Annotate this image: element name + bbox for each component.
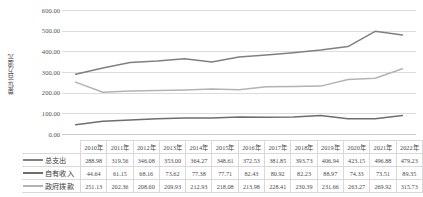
- y-axis-tick-label: 0.00: [22, 131, 60, 138]
- table-row: 政府拨款251.13202.36208.60209.93212.93218.08…: [0, 180, 423, 193]
- table-legend-corner: [22, 141, 81, 154]
- table-cell: 77.38: [186, 167, 212, 180]
- table-cell: 231.66: [317, 180, 343, 193]
- table-cell: 364.27: [186, 154, 212, 167]
- table-cell: 269.92: [370, 180, 396, 193]
- table-col-header: 2014年: [186, 141, 212, 154]
- table-cell: 381.85: [265, 154, 291, 167]
- x-axis-line: [62, 134, 416, 135]
- y-axis-tick-label: 300.00: [22, 69, 60, 76]
- y-axis-tick-label: 200.00: [22, 89, 60, 96]
- table-cell: 230.39: [291, 180, 317, 193]
- table-cell: 80.92: [265, 167, 291, 180]
- table-cell: 208.60: [133, 180, 159, 193]
- table-cell: 288.98: [81, 154, 107, 167]
- table-cell: 346.08: [133, 154, 159, 167]
- table-cell: 263.27: [343, 180, 369, 193]
- table-cell: 348.61: [212, 154, 238, 167]
- table-cell: 202.36: [107, 180, 133, 193]
- y-axis-tick-label: 500.00: [22, 27, 60, 34]
- table-cell: 68.16: [133, 167, 159, 180]
- table-cell: 393.73: [291, 154, 317, 167]
- table-col-header: 2022年: [396, 141, 422, 154]
- legend-label: 总支出: [45, 155, 67, 165]
- table-header-row: 2010年2011年2012年2013年2014年2015年2016年2017年…: [0, 141, 423, 154]
- legend-label: 自有收入: [45, 168, 74, 178]
- table-cell: 73.51: [370, 167, 396, 180]
- legend-line-swatch: [23, 172, 43, 174]
- table-row-spacer: [0, 180, 22, 193]
- data-table: 2010年2011年2012年2013年2014年2015年2016年2017年…: [0, 140, 423, 193]
- series-line-总支出: [76, 31, 403, 74]
- table-cell: 209.93: [159, 180, 185, 193]
- table-cell: 479.23: [396, 154, 422, 167]
- table-col-header: 2015年: [212, 141, 238, 154]
- table-col-header: 2020年: [343, 141, 369, 154]
- table-cell: 82.43: [238, 167, 264, 180]
- table-cell: 319.56: [107, 154, 133, 167]
- table-col-header: 2011年: [107, 141, 133, 154]
- table-cell: 82.23: [291, 167, 317, 180]
- chart-figure: 单位/百万澳元 600.00500.00400.00300.00200.0010…: [0, 0, 423, 197]
- table-col-header: 2018年: [291, 141, 317, 154]
- series-lines: [62, 10, 416, 134]
- table-cell: 89.35: [396, 167, 422, 180]
- legend-entry-自有收入[interactable]: 自有收入: [22, 167, 81, 180]
- table-cell: 251.13: [81, 180, 107, 193]
- table-cell: 218.08: [212, 180, 238, 193]
- table-cell: 44.64: [81, 167, 107, 180]
- table-col-header: 2016年: [238, 141, 264, 154]
- table-cell: 423.15: [343, 154, 369, 167]
- table-cell: 228.41: [265, 180, 291, 193]
- table-cell: 61.15: [107, 167, 133, 180]
- table-row-spacer: [0, 154, 22, 167]
- table-cell: 73.62: [159, 167, 185, 180]
- plot-area: 单位/百万澳元 600.00500.00400.00300.00200.0010…: [0, 0, 423, 143]
- y-axis-tick-label: 600.00: [22, 7, 60, 14]
- legend-label: 政府拨款: [45, 181, 74, 191]
- table-row: 总支出288.98319.56346.08353.00364.27348.613…: [0, 154, 423, 167]
- legend-entry-总支出[interactable]: 总支出: [22, 154, 81, 167]
- data-table-panel: 2010年2011年2012年2013年2014年2015年2016年2017年…: [0, 140, 423, 197]
- y-axis-title: 单位/百万澳元: [6, 38, 18, 112]
- table-cell: 315.73: [396, 180, 422, 193]
- table-cell: 372.53: [238, 154, 264, 167]
- table-cell: 213.98: [238, 180, 264, 193]
- series-line-自有收入: [76, 116, 403, 125]
- table-col-header: 2017年: [265, 141, 291, 154]
- y-axis-tick-label: 400.00: [22, 48, 60, 55]
- table-col-header: 2021年: [370, 141, 396, 154]
- table-col-header: 2010年: [81, 141, 107, 154]
- table-cell: 496.88: [370, 154, 396, 167]
- table-col-header: 2012年: [133, 141, 159, 154]
- table-col-header: 2013年: [159, 141, 185, 154]
- legend-line-swatch: [23, 159, 43, 161]
- legend-entry-政府拨款[interactable]: 政府拨款: [22, 180, 81, 193]
- table-corner-spacer: [0, 141, 22, 154]
- table-cell: 88.97: [317, 167, 343, 180]
- table-cell: 77.71: [212, 167, 238, 180]
- table-cell: 212.93: [186, 180, 212, 193]
- y-axis-tick-label: 100.00: [22, 110, 60, 117]
- table-cell: 406.94: [317, 154, 343, 167]
- table-col-header: 2019年: [317, 141, 343, 154]
- legend-line-swatch: [23, 185, 43, 187]
- series-line-政府拨款: [76, 69, 403, 92]
- table-row-spacer: [0, 167, 22, 180]
- table-row: 自有收入44.6461.1568.1673.6277.3877.7182.438…: [0, 167, 423, 180]
- table-cell: 74.33: [343, 167, 369, 180]
- table-cell: 353.00: [159, 154, 185, 167]
